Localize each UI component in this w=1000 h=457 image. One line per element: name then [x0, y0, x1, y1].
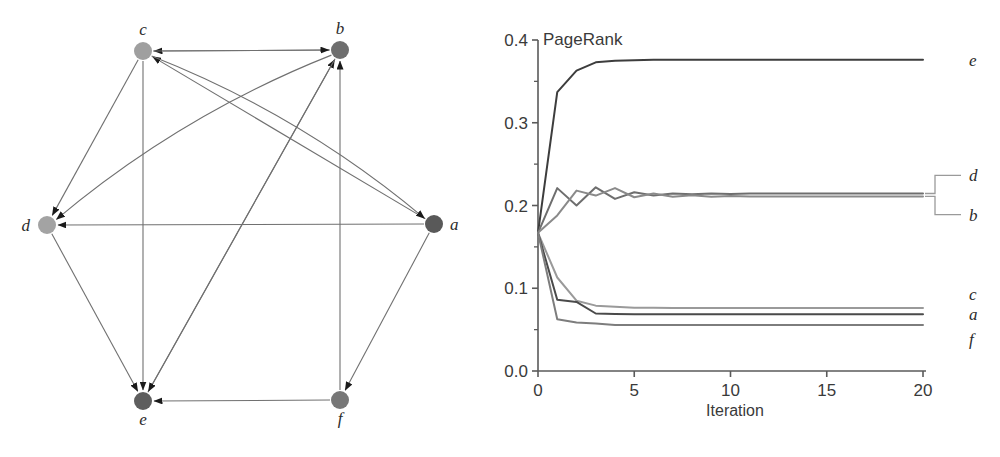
series-leader-b [925, 196, 961, 214]
series-label-e: e [969, 51, 977, 70]
series-label-c: c [969, 285, 977, 304]
graph-node-label-c: c [139, 20, 147, 39]
graph-node-b[interactable]: b [331, 19, 349, 59]
figure-root: abcdef 0.00.10.20.30.405101520 edbcaf Pa… [0, 0, 1000, 457]
x-axis-title: Iteration [706, 402, 764, 419]
graph-edge-c-to-b [153, 50, 329, 51]
x-tick-label-1: 5 [630, 381, 639, 400]
graph-edge-c-to-d [52, 60, 138, 216]
series-line-f [538, 233, 923, 325]
chart-annotation-pagerank: PageRank [543, 30, 623, 49]
pagerank-convergence-chart: 0.00.10.20.30.405101520 edbcaf PageRank … [480, 0, 1000, 457]
x-tick-label-2: 10 [721, 381, 740, 400]
graph-node-circle-d[interactable] [38, 216, 56, 234]
series-leader-d [925, 175, 961, 193]
graph-node-label-e: e [139, 410, 147, 429]
graph-node-f[interactable]: f [331, 391, 349, 428]
series-line-e [538, 60, 923, 233]
chart-series-labels: edbcaf [925, 51, 978, 349]
y-tick-label-3: 0.3 [504, 114, 528, 133]
graph-node-circle-e[interactable] [134, 392, 152, 410]
graph-node-a[interactable]: a [425, 215, 459, 234]
graph-diagram-panel: abcdef [0, 0, 480, 457]
graph-node-circle-b[interactable] [331, 41, 349, 59]
graph-edge-a-to-f [345, 233, 429, 390]
chart-axes [532, 40, 926, 377]
graph-edge-a-to-c [152, 57, 425, 219]
graph-node-e[interactable]: e [134, 392, 152, 429]
x-tick-label-4: 20 [914, 381, 933, 400]
graph-node-c[interactable]: c [134, 20, 152, 60]
y-tick-label-0: 0.0 [504, 362, 528, 381]
y-tick-label-4: 0.4 [504, 31, 528, 50]
chart-tick-labels: 0.00.10.20.30.405101520 [504, 31, 932, 400]
graph-edge-f-to-e [154, 400, 330, 401]
graph-diagram: abcdef [0, 0, 480, 457]
chart-series-group [538, 60, 923, 325]
graph-node-label-d: d [22, 216, 31, 235]
series-line-a [538, 233, 923, 315]
pagerank-chart-panel: 0.00.10.20.30.405101520 edbcaf PageRank … [480, 0, 1000, 457]
x-tick-label-0: 0 [533, 381, 542, 400]
series-label-d: d [969, 166, 978, 185]
graph-edge-d-to-e [52, 234, 138, 392]
graph-edge-group [52, 50, 430, 401]
series-label-a: a [969, 305, 978, 324]
graph-node-circle-c[interactable] [134, 42, 152, 60]
series-label-f: f [969, 330, 976, 349]
graph-edge-b-to-d [56, 55, 331, 219]
series-line-c [538, 233, 923, 308]
graph-node-d[interactable]: d [22, 216, 57, 235]
graph-node-circle-a[interactable] [425, 215, 443, 233]
graph-node-circle-f[interactable] [331, 391, 349, 409]
y-tick-label-2: 0.2 [504, 197, 528, 216]
series-line-d [538, 187, 923, 233]
graph-edge-a-to-d [58, 224, 424, 225]
y-tick-label-1: 0.1 [504, 279, 528, 298]
graph-node-label-f: f [338, 409, 345, 428]
x-tick-label-3: 15 [817, 381, 836, 400]
graph-node-label-b: b [336, 19, 345, 38]
graph-node-label-a: a [450, 215, 459, 234]
series-label-b: b [969, 206, 978, 225]
